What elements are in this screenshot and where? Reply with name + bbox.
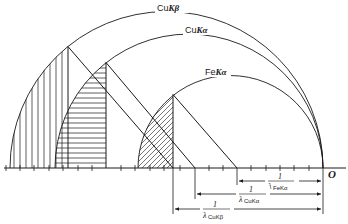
label-feka: FeKα xyxy=(205,67,228,77)
svg-text:1: 1 xyxy=(278,172,282,181)
feka-diagonal xyxy=(173,95,237,169)
svg-text:1: 1 xyxy=(213,200,217,209)
label-cuka: CuKα xyxy=(185,25,209,35)
hatch-cuka-horizontal xyxy=(50,68,110,163)
reciprocal-cuka: 1 λ CuKα xyxy=(236,185,270,204)
svg-text:CuKα: CuKα xyxy=(244,198,260,204)
svg-text:1: 1 xyxy=(249,185,253,194)
origin-label: O xyxy=(328,168,336,180)
label-cukb: CuKβ xyxy=(157,3,180,13)
ewald-sphere-diagram: CuKβ CuKα FeKα O 1 λ FeKα 1 λ CuKα 1 λ C… xyxy=(0,0,348,224)
diagram-canvas: CuKβ CuKα FeKα O 1 λ FeKα 1 λ CuKα 1 λ C… xyxy=(0,0,348,224)
svg-text:CuKβ: CuKβ xyxy=(208,214,224,220)
cukb-diagonal xyxy=(68,47,173,168)
svg-text:λ: λ xyxy=(238,195,243,204)
hatch-cukb-vertical xyxy=(14,40,62,168)
svg-text:λ: λ xyxy=(202,211,207,220)
reciprocal-feka: 1 λ FeKα xyxy=(265,172,299,191)
cuka-diagonal xyxy=(106,63,195,169)
svg-text:FeKα: FeKα xyxy=(273,185,288,191)
reciprocal-cukb: 1 λ CuKβ xyxy=(200,200,234,221)
